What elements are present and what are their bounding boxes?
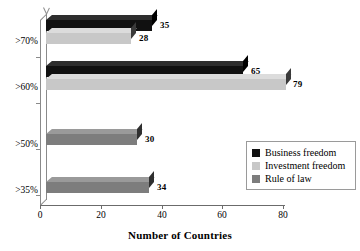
legend-label: Rule of law	[265, 172, 312, 185]
category-axis-rear	[40, 20, 41, 205]
legend-swatch-icon	[252, 149, 260, 157]
value-tick-label-20: 20	[89, 210, 113, 221]
bar-chart: >70% >60% >50% >35% 35 28 65	[0, 0, 360, 251]
value-tick	[222, 205, 223, 209]
value-tick-label-80: 80	[271, 210, 295, 221]
category-label-0: >70%	[0, 36, 38, 47]
axis-arrow-right	[46, 8, 50, 15]
legend-label: Investment freedom	[265, 159, 345, 172]
legend-label: Business freedom	[265, 146, 336, 159]
bar-side-face	[149, 171, 154, 188]
bar-rule-of-law-35	[46, 182, 149, 193]
legend-swatch-icon	[252, 175, 260, 183]
plot-area: >70% >60% >50% >35% 35 28 65	[0, 0, 360, 251]
category-label-2: >50%	[0, 139, 38, 150]
bar-rule-of-law-50	[46, 134, 137, 145]
legend-item-rule-of-law: Rule of law	[252, 172, 350, 185]
bar-front-face	[46, 134, 137, 145]
x-axis-title: Number of Countries	[0, 229, 360, 241]
bar-front-face	[46, 79, 286, 90]
bar-side-face	[152, 9, 157, 26]
value-tick-label-40: 40	[150, 210, 174, 221]
category-tick	[36, 103, 41, 104]
bar-front-face	[46, 182, 149, 193]
bar-side-face	[243, 55, 248, 72]
bar-value-label-30: 30	[145, 134, 154, 145]
value-tick	[40, 205, 41, 209]
bar-front-face	[46, 33, 131, 44]
legend-swatch-icon	[252, 162, 260, 170]
value-tick	[162, 205, 163, 209]
chart-legend: Business freedom Investment freedom Rule…	[246, 141, 356, 190]
value-tick-label-0: 0	[28, 210, 52, 221]
legend-item-investment-freedom: Investment freedom	[252, 159, 350, 172]
category-label-1: >60%	[0, 82, 38, 93]
bar-side-face	[137, 123, 142, 140]
category-label-3: >35%	[0, 185, 38, 196]
bar-value-label-79: 79	[293, 79, 302, 90]
bar-value-label-34: 34	[157, 182, 166, 193]
bar-side-face	[286, 68, 291, 85]
bar-investment-freedom-70	[46, 33, 131, 44]
bar-investment-freedom-60	[46, 79, 286, 90]
value-tick-label-60: 60	[210, 210, 234, 221]
category-tick	[36, 57, 41, 58]
legend-item-business-freedom: Business freedom	[252, 146, 350, 159]
value-tick	[283, 205, 284, 209]
bar-value-label-28: 28	[139, 33, 148, 44]
bar-value-label-35: 35	[160, 20, 169, 31]
value-tick	[101, 205, 102, 209]
